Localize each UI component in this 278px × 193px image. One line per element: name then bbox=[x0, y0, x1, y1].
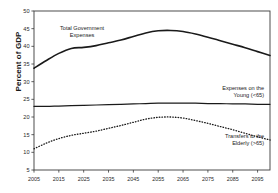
annotation-total-government-expenses: Total Government Expenses bbox=[60, 25, 104, 40]
x-tick-label: 2065 bbox=[177, 176, 189, 182]
annotation-line-1: Total Government bbox=[60, 25, 104, 32]
y-tick-label: 35 bbox=[23, 61, 29, 67]
y-tick-label: 10 bbox=[23, 149, 29, 155]
y-tick-label: 25 bbox=[23, 96, 29, 102]
y-tick-label: 50 bbox=[23, 8, 29, 14]
annotation-line-2: Expenses bbox=[60, 32, 104, 39]
annotation-line-2: Elderly (>65) bbox=[178, 140, 264, 147]
annotation-line-1: Expenses on the bbox=[178, 85, 264, 92]
series-line-1 bbox=[34, 103, 270, 106]
chart-container: Percent of GDP 5101520253035404550 20052… bbox=[0, 0, 278, 193]
y-tick-label: 5 bbox=[26, 167, 29, 173]
x-tick-label: 2015 bbox=[53, 176, 65, 182]
x-tick-label: 2095 bbox=[252, 176, 264, 182]
y-axis-ticks: 5101520253035404550 bbox=[23, 8, 34, 173]
y-tick-label: 45 bbox=[23, 26, 29, 32]
x-tick-label: 2055 bbox=[152, 176, 164, 182]
y-tick-label: 20 bbox=[23, 114, 29, 120]
y-tick-label: 15 bbox=[23, 132, 29, 138]
x-tick-label: 2025 bbox=[78, 176, 90, 182]
annotation-line-2: Young (<65) bbox=[178, 92, 264, 99]
annotation-transfers-elderly: Transfers to the Elderly (>65) bbox=[178, 133, 264, 148]
x-tick-label: 2075 bbox=[202, 176, 214, 182]
x-axis-ticks: 2005201520252035204520552065207520852095 bbox=[28, 170, 264, 182]
annotation-expenses-young: Expenses on the Young (<65) bbox=[178, 85, 264, 100]
y-tick-label: 40 bbox=[23, 43, 29, 49]
x-tick-label: 2045 bbox=[127, 176, 139, 182]
x-tick-label: 2005 bbox=[28, 176, 40, 182]
x-tick-label: 2085 bbox=[227, 176, 239, 182]
y-tick-label: 30 bbox=[23, 79, 29, 85]
annotation-line-1: Transfers to the bbox=[178, 133, 264, 140]
x-tick-label: 2035 bbox=[103, 176, 115, 182]
